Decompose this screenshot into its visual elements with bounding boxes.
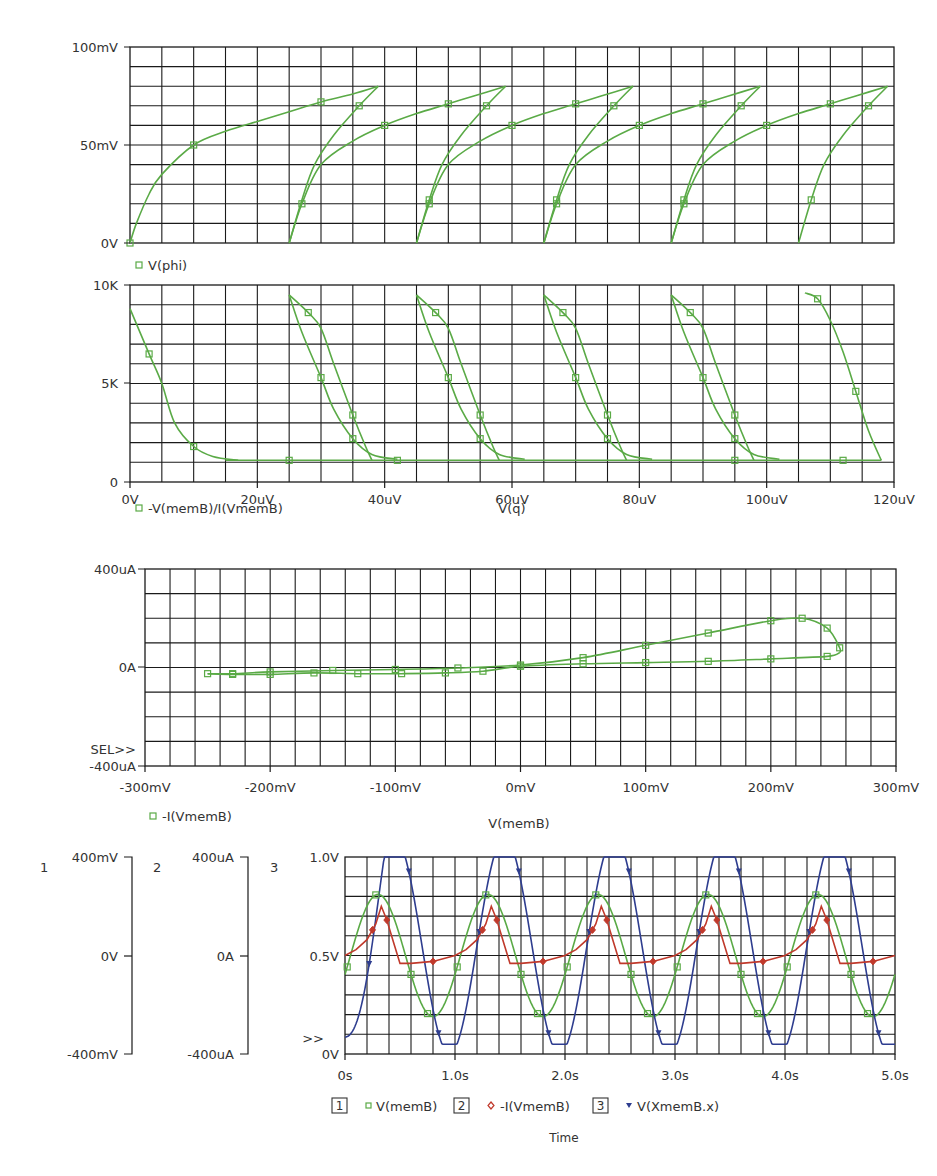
plot-memristance-vs-q: 10K 5K 0 0V20uV40uV60uV80uV100uV120uV -V… — [93, 278, 915, 516]
y-tick-label: 50mV — [80, 138, 118, 153]
legend-axis-number: 3 — [597, 1099, 605, 1113]
y-tick-label: -400mV — [67, 1047, 118, 1062]
curve-branch-b — [544, 295, 652, 459]
legend-axis-number: 1 — [336, 1099, 344, 1113]
y-tick-label: 1.0V — [309, 850, 339, 865]
x-axis-ticks: 0s1.0s2.0s3.0s4.0s5.0s — [337, 1054, 908, 1083]
legend-square-icon — [366, 1103, 371, 1108]
y-tick-label: 0 — [110, 475, 118, 490]
legend-label: -I(VmemB) — [500, 1099, 570, 1114]
curve-branch-b — [289, 295, 397, 459]
plot-grid — [130, 285, 894, 482]
axis-number: 1 — [40, 860, 48, 875]
y-tick-label: 0A — [119, 660, 136, 675]
chart-canvas: 100mV 50mV 0V V(phi) 10K 5K 0 0V20uV40uV… — [0, 0, 937, 1176]
x-tick-label: 0s — [337, 1068, 352, 1083]
plot-grid — [130, 47, 894, 243]
y-tick-label: 0V — [101, 949, 118, 964]
legend-square-icon — [136, 262, 142, 268]
series-v-phi — [127, 86, 888, 246]
curve-branch-a — [417, 295, 500, 460]
x-axis-title: Time — [548, 1131, 578, 1145]
x-axis-title: V(memB) — [488, 816, 549, 831]
x-tick-label: 0mV — [506, 780, 536, 795]
y-tick-label: 100mV — [72, 40, 118, 55]
data-marker-triangle — [436, 1030, 442, 1036]
x-axis-title: V(q) — [498, 501, 525, 516]
x-tick-label: 4.0s — [771, 1068, 799, 1083]
data-marker-diamond — [650, 958, 656, 965]
legend-label: V(XmemB.x) — [637, 1099, 719, 1114]
plot-grid — [345, 857, 895, 1054]
y-tick-label: 0A — [217, 949, 234, 964]
curve-branch-b — [417, 295, 525, 459]
data-marker-triangle — [876, 1030, 882, 1036]
data-marker-triangle — [546, 1030, 552, 1036]
axis-selector-marker: >> — [302, 1031, 324, 1046]
y-tick-label: 0V — [101, 236, 118, 251]
curve-branch-a — [671, 295, 754, 460]
curve-branch-a — [130, 309, 238, 461]
legend-label: -I(VmemB) — [162, 809, 232, 824]
curve-branch-a — [805, 293, 881, 460]
y-tick-label: 400uA — [192, 850, 234, 865]
axis-number: 3 — [270, 860, 278, 875]
legend: 1 V(memB) 2 -I(VmemB) 3 V(XmemB.x) — [332, 1098, 719, 1114]
x-tick-label: 120uV — [873, 492, 915, 507]
legend-label: -V(memB)/I(VmemB) — [148, 501, 283, 516]
y-tick-label: 0V — [322, 1047, 339, 1062]
x-tick-label: 80uV — [622, 492, 656, 507]
x-tick-label: -300mV — [119, 780, 170, 795]
x-tick-label: -200mV — [245, 780, 296, 795]
y-tick-label: 10K — [93, 278, 119, 293]
transient-series — [344, 857, 895, 1044]
plot-iv-curve: 400uA 0A SEL>> -400uA -300mV-200mV-100mV… — [89, 562, 919, 831]
sel-marker: SEL>> — [91, 742, 137, 757]
curve-branch-a — [289, 295, 372, 460]
legend-square-icon — [150, 813, 156, 819]
y-tick-label: 5K — [101, 376, 118, 391]
y-tick-label: 0.5V — [309, 949, 339, 964]
series-memristance — [130, 293, 881, 463]
y-tick-label: -400uA — [187, 1047, 234, 1062]
x-tick-label: 5.0s — [881, 1068, 909, 1083]
data-marker-triangle — [656, 1030, 662, 1036]
x-axis-ticks: -300mV-200mV-100mV0mV100mV200mV300mV — [119, 766, 919, 795]
x-tick-label: -100mV — [370, 780, 421, 795]
x-tick-label: 3.0s — [661, 1068, 689, 1083]
data-marker-diamond — [870, 958, 876, 965]
x-tick-label: 300mV — [873, 780, 919, 795]
curve-branch-a — [544, 295, 627, 460]
y-tick-label: 400uA — [94, 562, 136, 577]
data-marker-triangle — [766, 1030, 772, 1036]
legend-axis-number: 2 — [458, 1099, 466, 1113]
data-marker-diamond — [430, 958, 436, 965]
plot-transient: 1 400mV 0V -400mV 2 400uA 0A -400uA 3 1.… — [40, 850, 909, 1145]
curve-branch-b — [671, 295, 779, 459]
x-tick-label: 1.0s — [441, 1068, 469, 1083]
x-tick-label: 100uV — [746, 492, 788, 507]
legend-label: V(phi) — [148, 258, 187, 273]
axis-number: 2 — [153, 860, 161, 875]
x-tick-label: 200mV — [748, 780, 794, 795]
x-tick-label: 2.0s — [551, 1068, 579, 1083]
data-marker-diamond — [760, 958, 766, 965]
data-marker-diamond — [540, 958, 546, 965]
plot-phi-vs-q: 100mV 50mV 0V V(phi) — [72, 40, 894, 273]
x-tick-label: 100mV — [622, 780, 668, 795]
x-tick-label: 40uV — [368, 492, 402, 507]
y-tick-label: 400mV — [72, 850, 118, 865]
y-tick-label: -400uA — [89, 759, 136, 774]
legend-diamond-icon — [488, 1102, 494, 1109]
legend-triangle-icon — [626, 1103, 632, 1108]
legend-label: V(memB) — [376, 1099, 437, 1114]
series-i-vmemb — [205, 615, 843, 677]
